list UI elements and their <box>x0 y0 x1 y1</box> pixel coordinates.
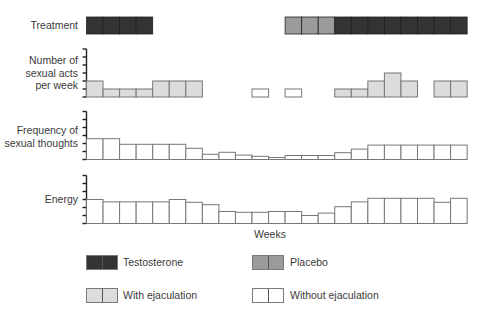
treatment-cell-placebo <box>318 17 335 34</box>
legend-label-without-ejaculation: Without ejaculation <box>290 289 379 301</box>
sexual-acts-label-line3: per week <box>0 79 78 92</box>
sexual-thoughts-bar <box>120 144 137 159</box>
legend-label-placebo: Placebo <box>290 256 328 268</box>
energy-label: Energy <box>0 193 78 206</box>
energy-bar <box>103 202 120 224</box>
sexual-thoughts-bar <box>87 139 104 160</box>
treatment-cell-testosterone <box>87 17 104 34</box>
sexual-thoughts-bar <box>153 144 170 159</box>
energy-bar <box>351 202 368 224</box>
treatment-cell-testosterone <box>335 17 352 34</box>
sexual-acts-bar <box>368 81 385 97</box>
sexual-thoughts-bar <box>368 145 385 159</box>
sexual-acts-bar <box>451 81 468 97</box>
energy-bar <box>169 200 186 224</box>
sexual-acts-bar <box>351 89 368 97</box>
treatment-cell-testosterone <box>368 17 385 34</box>
sexual-acts-label-line1: Number of <box>0 54 78 67</box>
energy-bar <box>186 202 203 223</box>
sexual-thoughts-bar <box>285 156 302 160</box>
sexual-acts-bar <box>120 89 137 97</box>
sexual-thoughts-bar <box>252 156 269 159</box>
sexual-thoughts-bar <box>384 145 401 159</box>
sexual-acts-bar <box>136 89 153 97</box>
energy-bar <box>285 212 302 224</box>
chart-canvas <box>0 0 481 319</box>
sexual-acts-bar <box>285 89 302 97</box>
energy-bar <box>401 198 418 223</box>
sexual-acts-bar <box>384 73 401 97</box>
energy-bar <box>384 198 401 223</box>
treatment-cell-testosterone <box>351 17 368 34</box>
treatment-cell-testosterone <box>136 17 153 34</box>
sexual-thoughts-bar <box>335 153 352 160</box>
sexual-thoughts-bar <box>269 158 286 160</box>
sexual-thoughts-bar <box>169 144 186 159</box>
sexual-thoughts-bar <box>451 145 468 159</box>
sexual-acts-bar <box>186 81 203 97</box>
energy-bar <box>451 198 468 223</box>
energy-bar <box>335 207 352 224</box>
treatment-cell-testosterone <box>418 17 435 34</box>
sexual-thoughts-bar <box>103 139 120 160</box>
legend-label-testosterone: Testosterone <box>123 256 183 268</box>
treatment-cell-testosterone <box>384 17 401 34</box>
sexual-thoughts-bar <box>401 145 418 159</box>
x-axis-label: Weeks <box>254 228 286 240</box>
energy-bar <box>120 202 137 224</box>
legend-swatch-placebo <box>252 255 284 270</box>
energy-bar <box>153 202 170 224</box>
energy-bar <box>87 200 104 224</box>
sexual-thoughts-bar <box>418 145 435 159</box>
sexual-acts-bar <box>169 81 186 97</box>
sexual-thoughts-bar <box>434 145 451 159</box>
treatment-row <box>87 17 468 34</box>
energy-bar <box>318 213 335 223</box>
legend-swatch-with-ejaculation <box>86 288 118 303</box>
sexual-acts-bar <box>87 81 104 97</box>
sexual-acts-bar <box>153 81 170 97</box>
energy-bar <box>252 212 269 223</box>
sexual-acts-label: Number of sexual acts per week <box>0 54 78 92</box>
sexual-thoughts-bar <box>186 148 203 159</box>
sexual-thoughts-label-line1: Frequency of <box>0 124 78 137</box>
sexual-thoughts-bar <box>235 155 252 159</box>
sexual-thoughts-label-line2: sexual thoughts <box>0 137 78 150</box>
energy-bar <box>434 202 451 223</box>
energy-bar <box>269 212 286 224</box>
treatment-cell-testosterone <box>120 17 137 34</box>
sexual-acts-bar <box>103 89 120 97</box>
treatment-cell-testosterone <box>434 17 451 34</box>
sexual-acts-bar <box>252 89 269 97</box>
treatment-cell-placebo <box>285 17 302 34</box>
energy-bar <box>302 216 319 224</box>
legend-label-with-ejaculation: With ejaculation <box>123 289 197 301</box>
treatment-cell-testosterone <box>401 17 418 34</box>
treatment-cell-placebo <box>302 17 319 34</box>
treatment-label: Treatment <box>0 19 78 32</box>
energy-bar <box>418 198 435 223</box>
sexual-thoughts-bar <box>219 152 236 159</box>
sexual-acts-label-line2: sexual acts <box>0 67 78 80</box>
sexual-thoughts-bar <box>351 149 368 159</box>
sexual-acts-panel <box>83 49 468 97</box>
energy-bar <box>368 198 385 223</box>
sexual-thoughts-panel <box>83 112 468 160</box>
legend-swatch-testosterone <box>86 255 118 270</box>
treatment-cell-testosterone <box>103 17 120 34</box>
energy-bar <box>235 212 252 223</box>
legend-swatch-without-ejaculation <box>252 288 284 303</box>
sexual-thoughts-bar <box>302 156 319 160</box>
energy-bar <box>136 202 153 224</box>
sexual-thoughts-bar <box>136 144 153 159</box>
treatment-cell-testosterone <box>451 17 468 34</box>
energy-bar <box>202 205 219 224</box>
sexual-thoughts-bar <box>202 154 219 159</box>
sexual-thoughts-bar <box>318 156 335 160</box>
sexual-thoughts-label: Frequency of sexual thoughts <box>0 124 78 149</box>
energy-panel <box>83 176 468 224</box>
sexual-acts-bar <box>335 89 352 97</box>
sexual-acts-bar <box>434 81 451 97</box>
sexual-acts-bar <box>401 81 418 97</box>
energy-bar <box>219 212 236 224</box>
